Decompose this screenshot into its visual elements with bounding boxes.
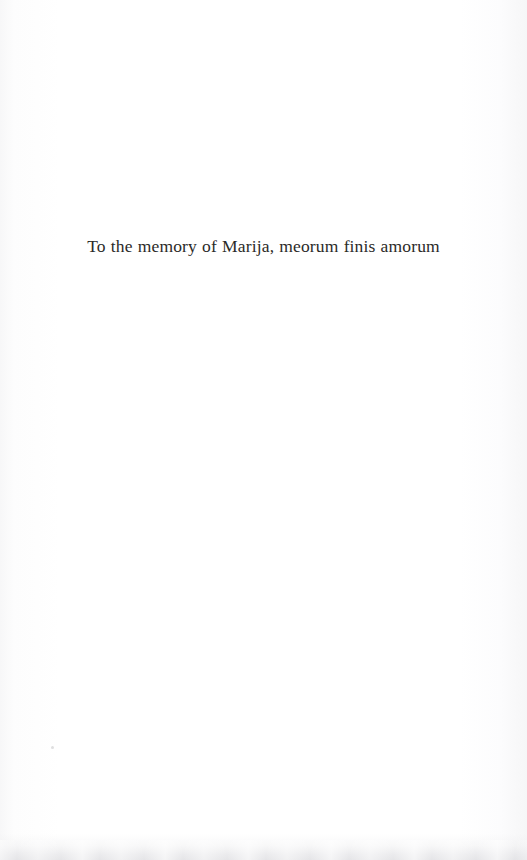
paper-tone-overlay: [0, 0, 527, 860]
page-bottom-edge-shadow: [0, 834, 527, 860]
scan-dust-speck: [51, 746, 54, 749]
dedication-block: To the memory of Marija, meorum finis am…: [0, 236, 527, 258]
page-bottom-edge-mottle: [0, 840, 527, 860]
dedication-text: To the memory of Marija, meorum finis am…: [87, 236, 440, 258]
dedication-page: To the memory of Marija, meorum finis am…: [0, 0, 527, 860]
